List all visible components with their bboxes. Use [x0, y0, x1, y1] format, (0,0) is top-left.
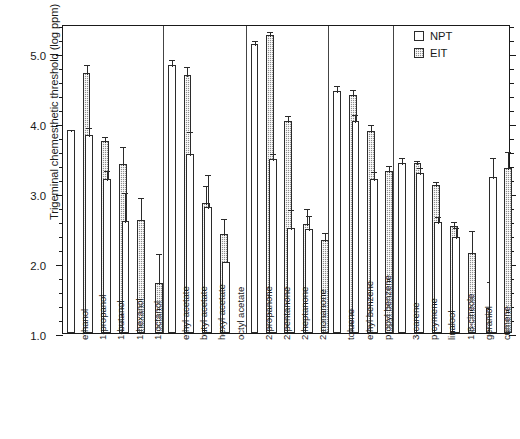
error-bar-cap: [322, 233, 328, 234]
error-bar: [273, 154, 274, 162]
error-bar-cap: [102, 137, 108, 138]
y-tick-major: 4.0: [56, 125, 63, 126]
x-axis-label: geraniol: [483, 306, 494, 340]
x-axis-label: 1-butanol: [115, 300, 126, 340]
error-bar: [123, 147, 124, 167]
y-tick-minor: [59, 111, 64, 112]
error-bar: [374, 172, 375, 180]
error-bar-cap: [453, 228, 459, 229]
error-bar-cap: [288, 210, 294, 211]
bar-npt: [67, 130, 75, 333]
y-tick-major: 3.0: [56, 195, 63, 196]
y-tick-minor: [59, 293, 64, 294]
legend-swatch-eit-icon: [414, 48, 424, 58]
y-tick-minor: [59, 153, 64, 154]
error-bar-cap: [169, 60, 175, 61]
error-bar: [208, 175, 209, 209]
y-tick-label: 4.0: [30, 120, 46, 132]
y-tick-minor: [59, 69, 64, 70]
y-tick-minor-right: [509, 139, 514, 140]
y-tick-minor: [59, 181, 64, 182]
y-tick-label: 2.0: [30, 260, 46, 272]
error-bar: [337, 86, 338, 93]
y-tick-minor: [59, 223, 64, 224]
error-bar-cap: [122, 193, 128, 194]
error-bar-cap: [386, 166, 392, 167]
error-bar: [125, 193, 126, 223]
error-bar: [389, 166, 390, 173]
error-bar-cap: [304, 209, 310, 210]
y-tick-minor-right: [509, 111, 514, 112]
error-bar: [89, 128, 90, 137]
y-tick-minor: [59, 251, 64, 252]
y-tick-minor: [59, 27, 64, 28]
error-bar: [141, 198, 142, 221]
error-bar-cap: [490, 158, 496, 159]
x-axis-label: 2-pentanone: [281, 287, 292, 340]
y-tick-minor: [59, 279, 64, 280]
error-bar: [472, 231, 473, 256]
error-bar-cap: [267, 32, 273, 33]
error-bar-cap: [270, 154, 276, 155]
y-tick-minor-right: [509, 27, 514, 28]
error-bar-cap: [469, 231, 475, 232]
x-axis-label: ethyl acetate: [180, 286, 191, 340]
error-bar-cap: [187, 132, 193, 133]
error-bar-cap: [84, 65, 90, 66]
y-tick-minor: [59, 167, 64, 168]
error-bar-cap: [306, 216, 312, 217]
bar-npt: [251, 44, 259, 333]
error-bar-cap: [414, 161, 420, 162]
error-bar-cap: [205, 175, 211, 176]
error-bar-cap: [399, 158, 405, 159]
error-bar: [420, 168, 421, 175]
error-bar: [355, 115, 356, 123]
x-axis-label: 1-hexanol: [134, 298, 145, 340]
error-bar-cap: [433, 182, 439, 183]
error-bar-cap: [86, 128, 92, 129]
error-bar-cap: [334, 86, 340, 87]
error-bar-cap: [221, 219, 227, 220]
y-tick-minor: [59, 237, 64, 238]
bar-npt: [398, 163, 406, 333]
error-bar-cap: [285, 116, 291, 117]
y-tick-minor-right: [509, 83, 514, 84]
legend-swatch-npt-icon: [414, 31, 424, 41]
y-tick-minor: [59, 209, 64, 210]
error-bar: [172, 60, 173, 67]
error-bar: [309, 216, 310, 231]
y-tick-minor: [59, 41, 64, 42]
error-bar-cap: [120, 147, 126, 148]
x-axis-label: 2-propanone: [263, 286, 274, 340]
x-axis-label: cumene: [501, 306, 512, 340]
error-bar: [190, 132, 191, 157]
legend-entry-eit: EIT: [414, 45, 452, 60]
error-bar-cap: [451, 222, 457, 223]
y-tick-major: 5.0: [56, 55, 63, 56]
y-tick-minor-right: [509, 97, 514, 98]
error-bar-cap: [371, 172, 377, 173]
x-axis-label: hexyl acetate: [216, 284, 227, 340]
x-axis-label: 3-carene: [410, 303, 421, 340]
error-bar-cap: [368, 125, 374, 126]
x-axis-label: toluene: [345, 309, 356, 340]
bar-npt: [352, 121, 360, 333]
error-bar: [187, 67, 188, 77]
y-tick-minor: [59, 97, 64, 98]
legend-label-npt: NPT: [430, 30, 452, 42]
x-axis-label: 2-heptanone: [299, 287, 310, 340]
y-tick-label: 5.0: [30, 50, 46, 62]
error-bar: [438, 217, 439, 224]
error-bar-cap: [68, 130, 74, 131]
y-tick-label: 3.0: [30, 190, 46, 202]
chart-figure: Trigeminal chemesthetic threshold (log p…: [0, 0, 520, 439]
x-axis-label: linalool: [446, 311, 457, 340]
error-bar: [456, 228, 457, 239]
error-bar-cap: [184, 67, 190, 68]
y-tick-major: 2.0: [56, 265, 63, 266]
error-bar-cap: [350, 90, 356, 91]
x-axis-label: 1,8-cineole: [465, 294, 476, 340]
x-axis-label: 2-nonanone: [317, 289, 328, 340]
error-bar-cap: [138, 198, 144, 199]
error-bar-cap: [156, 254, 162, 255]
